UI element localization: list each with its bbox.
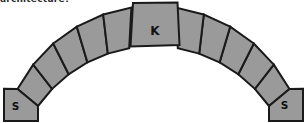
arch-blocks — [4, 3, 303, 122]
voussoir-block-left — [103, 8, 131, 54]
arch-diagram: architecture? KSS — [0, 0, 304, 123]
arch-svg: KSS — [0, 0, 304, 123]
voussoir-block-right — [176, 8, 204, 54]
keystone-label: K — [150, 24, 160, 38]
left-springer-label: S — [12, 100, 20, 112]
right-springer-label: S — [281, 99, 289, 111]
